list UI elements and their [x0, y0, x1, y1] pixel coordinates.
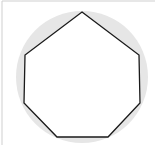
- diagram-canvas: [0, 0, 155, 145]
- heptagon-figure: [0, 0, 155, 145]
